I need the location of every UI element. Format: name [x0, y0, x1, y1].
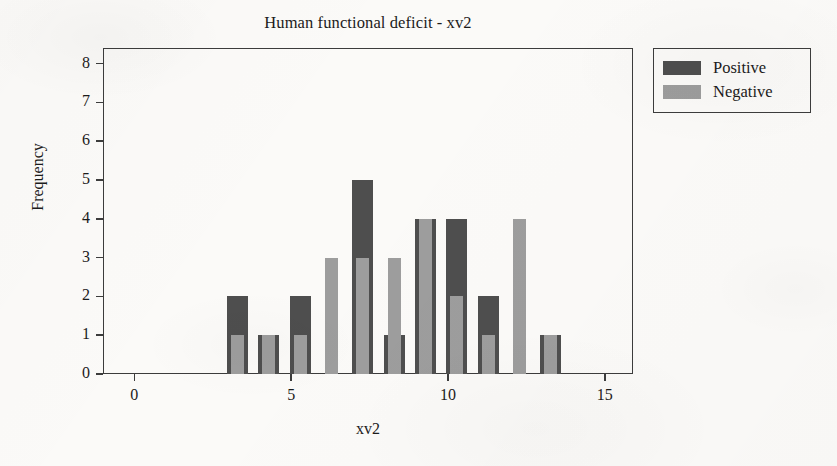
y-tick-mark: [96, 296, 103, 298]
legend-entry-positive: Positive: [663, 56, 801, 80]
x-tick-label: 10: [428, 386, 468, 404]
chart-legend: Positive Negative: [653, 48, 811, 113]
bar-negative-x2: [294, 335, 307, 374]
bar-negative-x10: [544, 335, 557, 374]
y-tick-mark: [96, 140, 103, 142]
x-tick-mark: [604, 374, 606, 381]
y-tick-label: 1: [64, 325, 90, 343]
y-tick-label: 3: [64, 248, 90, 266]
x-tick-mark: [447, 374, 449, 381]
y-tick-mark: [96, 179, 103, 181]
y-tick-mark: [96, 334, 103, 336]
bar-negative-x9: [513, 219, 526, 374]
bar-negative-x1: [262, 335, 275, 374]
bar-negative-x4: [356, 258, 369, 374]
y-tick-mark: [96, 63, 103, 65]
x-tick-label: 0: [114, 386, 154, 404]
x-tick-mark: [290, 374, 292, 381]
y-tick-label: 4: [64, 209, 90, 227]
x-axis-title: xv2: [103, 420, 633, 438]
y-tick-label: 7: [64, 92, 90, 110]
chart-title: Human functional deficit - xv2: [103, 13, 633, 33]
x-tick-label: 15: [585, 386, 625, 404]
y-tick-mark: [96, 218, 103, 220]
legend-entry-negative: Negative: [663, 80, 801, 104]
y-tick-label: 5: [64, 170, 90, 188]
y-tick-label: 0: [64, 364, 90, 382]
bar-negative-x3: [325, 258, 338, 374]
bar-negative-x0: [231, 335, 244, 374]
chart-figure: Human functional deficit - xv2 Frequency…: [0, 0, 837, 466]
legend-swatch-negative: [663, 85, 701, 99]
bar-negative-x8: [482, 335, 495, 374]
y-tick-mark: [96, 102, 103, 104]
legend-swatch-positive: [663, 61, 701, 75]
legend-label-positive: Positive: [713, 60, 766, 77]
bar-negative-x5: [388, 258, 401, 374]
y-tick-mark: [96, 373, 103, 375]
y-tick-label: 2: [64, 286, 90, 304]
bar-negative-x7: [450, 296, 463, 374]
bar-negative-x6: [419, 219, 432, 374]
x-tick-label: 5: [271, 386, 311, 404]
x-tick-mark: [134, 374, 136, 381]
y-tick-mark: [96, 257, 103, 259]
legend-label-negative: Negative: [713, 84, 773, 101]
y-tick-label: 8: [64, 54, 90, 72]
y-tick-label: 6: [64, 131, 90, 149]
y-axis-title: Frequency: [29, 117, 47, 237]
